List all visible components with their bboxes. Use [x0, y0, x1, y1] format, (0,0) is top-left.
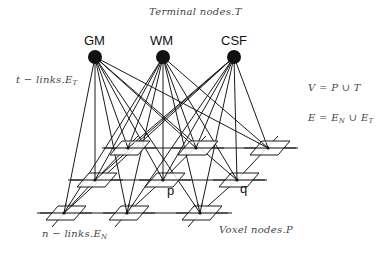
- voxel-nodes-label: Voxel nodes.P: [219, 224, 293, 235]
- t-link-line: [234, 57, 268, 148]
- t-link-line: [200, 57, 234, 213]
- terminal-label-gm: GM: [84, 33, 105, 48]
- terminal-label-wm: WM: [150, 33, 173, 48]
- t-links-label: t − links.ET: [16, 74, 78, 87]
- n-links-label: n − links.EN: [42, 228, 107, 241]
- terminal-label-csf: CSF: [221, 33, 247, 48]
- eq-e-sub-t: T: [369, 117, 374, 125]
- n-links-text: n − links.E: [42, 228, 101, 239]
- graph-network: [0, 0, 391, 253]
- node-label-q: q: [240, 181, 247, 196]
- terminal-node-csf: [227, 50, 241, 64]
- node-label-p: p: [167, 183, 174, 198]
- t-links-text: t − links.E: [16, 74, 73, 85]
- terminal-node-wm: [156, 50, 170, 64]
- terminal-node-gm: [88, 50, 102, 64]
- t-links-subscript: T: [73, 79, 78, 87]
- graph-cut-diagram: Terminal nodes.T GM WM CSF t − links.ET …: [0, 0, 391, 253]
- eq-e-prefix: E = E: [308, 112, 339, 123]
- terminal-nodes-title: Terminal nodes.T: [149, 6, 242, 17]
- t-link-line: [64, 57, 163, 213]
- eq-e-mid: ∪ E: [345, 112, 368, 123]
- t-link-line: [127, 57, 163, 213]
- t-link-line: [196, 57, 234, 148]
- edge-set-equation: E = EN ∪ ET: [308, 112, 374, 125]
- vertex-set-equation: V = P ∪ T: [308, 82, 361, 93]
- n-links-subscript: N: [101, 233, 107, 241]
- t-link-line: [64, 57, 234, 213]
